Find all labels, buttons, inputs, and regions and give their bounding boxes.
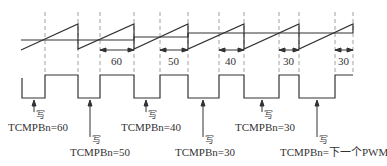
compare-threshold-line — [21, 33, 353, 40]
write-label: 写 — [319, 135, 328, 145]
pwm-output-waveform — [22, 75, 353, 98]
write-label: 写 — [148, 110, 157, 120]
register-annotation: TCMPBn=50 — [70, 146, 130, 158]
register-annotation: TCMPBn=60 — [8, 121, 68, 133]
dead-zone-label: 30 — [283, 55, 295, 67]
register-annotation: TCMPBn=下一个PWM — [280, 146, 387, 158]
pwm-timing-diagram: 60 50 40 30 30 写 写 写 写 写 写 TCMPBn=60 TCM… — [0, 0, 387, 166]
dead-zone-label: 30 — [338, 55, 350, 67]
register-annotation: TCMPBn=40 — [121, 121, 181, 133]
write-label: 写 — [264, 110, 273, 120]
register-annotation: TCMPBn=30 — [175, 146, 235, 158]
dead-zone-label: 40 — [225, 55, 237, 67]
write-label: 写 — [92, 135, 101, 145]
write-label: 写 — [36, 110, 45, 120]
write-label: 写 — [205, 135, 214, 145]
dead-zone-label: 60 — [111, 55, 123, 67]
register-annotation: TCMPBn=30 — [235, 121, 295, 133]
dimension-arrows — [100, 48, 353, 52]
dead-zone-label: 50 — [168, 55, 180, 67]
